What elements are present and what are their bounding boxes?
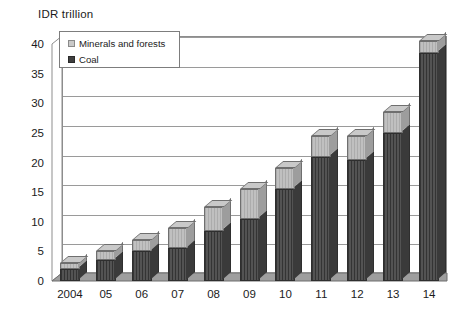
bar-05 xyxy=(96,251,116,281)
y-tick-20: 20 xyxy=(14,157,44,169)
bars-layer xyxy=(52,44,447,281)
x-tick-10: 10 xyxy=(279,288,292,300)
bar-segment-coal xyxy=(383,133,403,281)
legend-swatch-minerals-icon xyxy=(68,40,75,47)
bar-06 xyxy=(132,240,152,281)
y-tick-5: 5 xyxy=(14,245,44,257)
bar-14 xyxy=(419,41,439,281)
y-tick-15: 15 xyxy=(14,186,44,198)
bar-07 xyxy=(168,228,188,281)
bar-segment-coal xyxy=(60,269,80,281)
y-tick-0: 0 xyxy=(14,275,44,287)
x-tick-12: 12 xyxy=(351,288,364,300)
bar-segment-minerals xyxy=(311,136,331,157)
bar-08 xyxy=(204,207,224,281)
bar-segment-minerals xyxy=(383,112,403,133)
legend-item-coal: Coal xyxy=(68,51,179,67)
bar-segment-coal xyxy=(275,189,295,281)
x-tick-08: 08 xyxy=(207,288,220,300)
bar-09 xyxy=(240,189,260,281)
bar-chart: IDR trillion 0510152025303540 2004050607… xyxy=(0,0,458,319)
bar-segment-minerals xyxy=(96,251,116,260)
legend-item-minerals: Minerals and forests xyxy=(68,35,179,51)
bar-segment-minerals xyxy=(240,189,260,219)
x-tick-07: 07 xyxy=(171,288,184,300)
legend: Minerals and forests Coal xyxy=(59,31,180,68)
bar-side-coal xyxy=(401,124,410,280)
bar-side-coal xyxy=(329,147,338,280)
bar-side-coal xyxy=(293,180,302,280)
bar-2004 xyxy=(60,263,80,281)
bar-segment-minerals xyxy=(60,263,80,269)
x-tick-11: 11 xyxy=(315,288,327,300)
x-tick-09: 09 xyxy=(243,288,256,300)
bar-segment-minerals xyxy=(275,168,295,189)
bar-segment-minerals xyxy=(204,207,224,231)
x-tick-06: 06 xyxy=(135,288,148,300)
bar-13 xyxy=(383,112,403,281)
bar-side-coal xyxy=(437,44,446,280)
x-tick-13: 13 xyxy=(387,288,400,300)
y-tick-30: 30 xyxy=(14,97,44,109)
legend-swatch-coal-icon xyxy=(68,56,75,63)
bar-segment-coal xyxy=(132,251,152,281)
bar-segment-coal xyxy=(347,160,367,281)
legend-label-coal: Coal xyxy=(79,54,99,65)
bar-12 xyxy=(347,136,367,281)
bar-segment-minerals xyxy=(347,136,367,160)
bar-10 xyxy=(275,168,295,281)
bar-segment-coal xyxy=(96,260,116,281)
y-tick-25: 25 xyxy=(14,127,44,139)
bar-segment-coal xyxy=(240,219,260,281)
bar-segment-coal xyxy=(168,248,188,281)
bar-segment-minerals xyxy=(419,41,439,53)
bar-segment-coal xyxy=(204,231,224,281)
bar-segment-coal xyxy=(311,157,331,281)
y-axis-title: IDR trillion xyxy=(38,8,93,20)
x-tick-05: 05 xyxy=(99,288,112,300)
bar-11 xyxy=(311,136,331,281)
y-tick-10: 10 xyxy=(14,216,44,228)
x-tick-2004: 2004 xyxy=(57,288,83,300)
bar-segment-coal xyxy=(419,53,439,281)
y-tick-40: 40 xyxy=(14,38,44,50)
y-tick-35: 35 xyxy=(14,68,44,80)
x-tick-14: 14 xyxy=(423,288,436,300)
bar-side-coal xyxy=(365,150,374,280)
legend-label-minerals: Minerals and forests xyxy=(79,38,165,49)
bar-segment-minerals xyxy=(168,228,188,249)
bar-segment-minerals xyxy=(132,240,152,252)
bar-side-coal xyxy=(258,210,267,280)
